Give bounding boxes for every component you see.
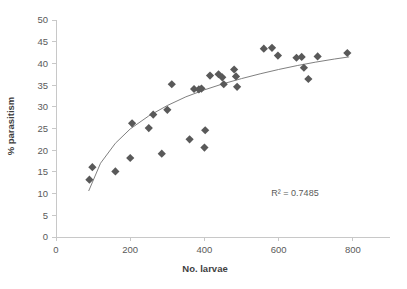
y-tick-label: 0 bbox=[43, 231, 48, 242]
x-tick-label: 600 bbox=[271, 244, 287, 255]
data-point bbox=[88, 163, 96, 171]
data-point bbox=[158, 150, 166, 158]
data-point bbox=[201, 126, 209, 134]
data-point bbox=[220, 80, 228, 88]
x-tick-label: 800 bbox=[345, 244, 361, 255]
data-points bbox=[85, 44, 351, 184]
data-point bbox=[260, 45, 268, 53]
y-tick-label: 20 bbox=[37, 145, 48, 156]
x-tick-label: 0 bbox=[53, 244, 58, 255]
data-point bbox=[186, 135, 194, 143]
data-point bbox=[343, 49, 351, 57]
y-axis-title: % parasitism bbox=[5, 97, 16, 156]
y-tick-label: 45 bbox=[37, 36, 48, 47]
x-tick-label: 200 bbox=[122, 244, 138, 255]
x-tick-label: 400 bbox=[197, 244, 213, 255]
y-tick-label: 40 bbox=[37, 58, 48, 69]
data-point bbox=[111, 167, 119, 175]
y-tick-label: 5 bbox=[43, 210, 48, 221]
data-point bbox=[126, 154, 134, 162]
data-point bbox=[304, 75, 312, 83]
r-squared-annotation: R² = 0.7485 bbox=[271, 188, 318, 198]
y-tick-label: 15 bbox=[37, 166, 48, 177]
data-point bbox=[200, 143, 208, 151]
data-point bbox=[268, 44, 276, 52]
x-axis-ticks: 0200400600800 bbox=[53, 237, 360, 255]
data-point bbox=[298, 53, 306, 61]
y-axis-ticks: 05101520253035404550 bbox=[37, 14, 56, 242]
data-point bbox=[314, 52, 322, 60]
y-tick-label: 25 bbox=[37, 123, 48, 134]
y-tick-label: 35 bbox=[37, 80, 48, 91]
data-point bbox=[145, 124, 153, 132]
data-point bbox=[206, 71, 214, 79]
data-point bbox=[168, 80, 176, 88]
x-axis-title: No. larvae bbox=[182, 263, 227, 274]
data-point bbox=[230, 65, 238, 73]
chart-container: 05101520253035404550 0200400600800 No. l… bbox=[0, 0, 407, 289]
data-point bbox=[233, 83, 241, 91]
y-tick-label: 50 bbox=[37, 14, 48, 25]
y-tick-label: 10 bbox=[37, 188, 48, 199]
data-point bbox=[274, 51, 282, 59]
scatter-chart: 05101520253035404550 0200400600800 No. l… bbox=[0, 0, 407, 289]
y-tick-label: 30 bbox=[37, 101, 48, 112]
